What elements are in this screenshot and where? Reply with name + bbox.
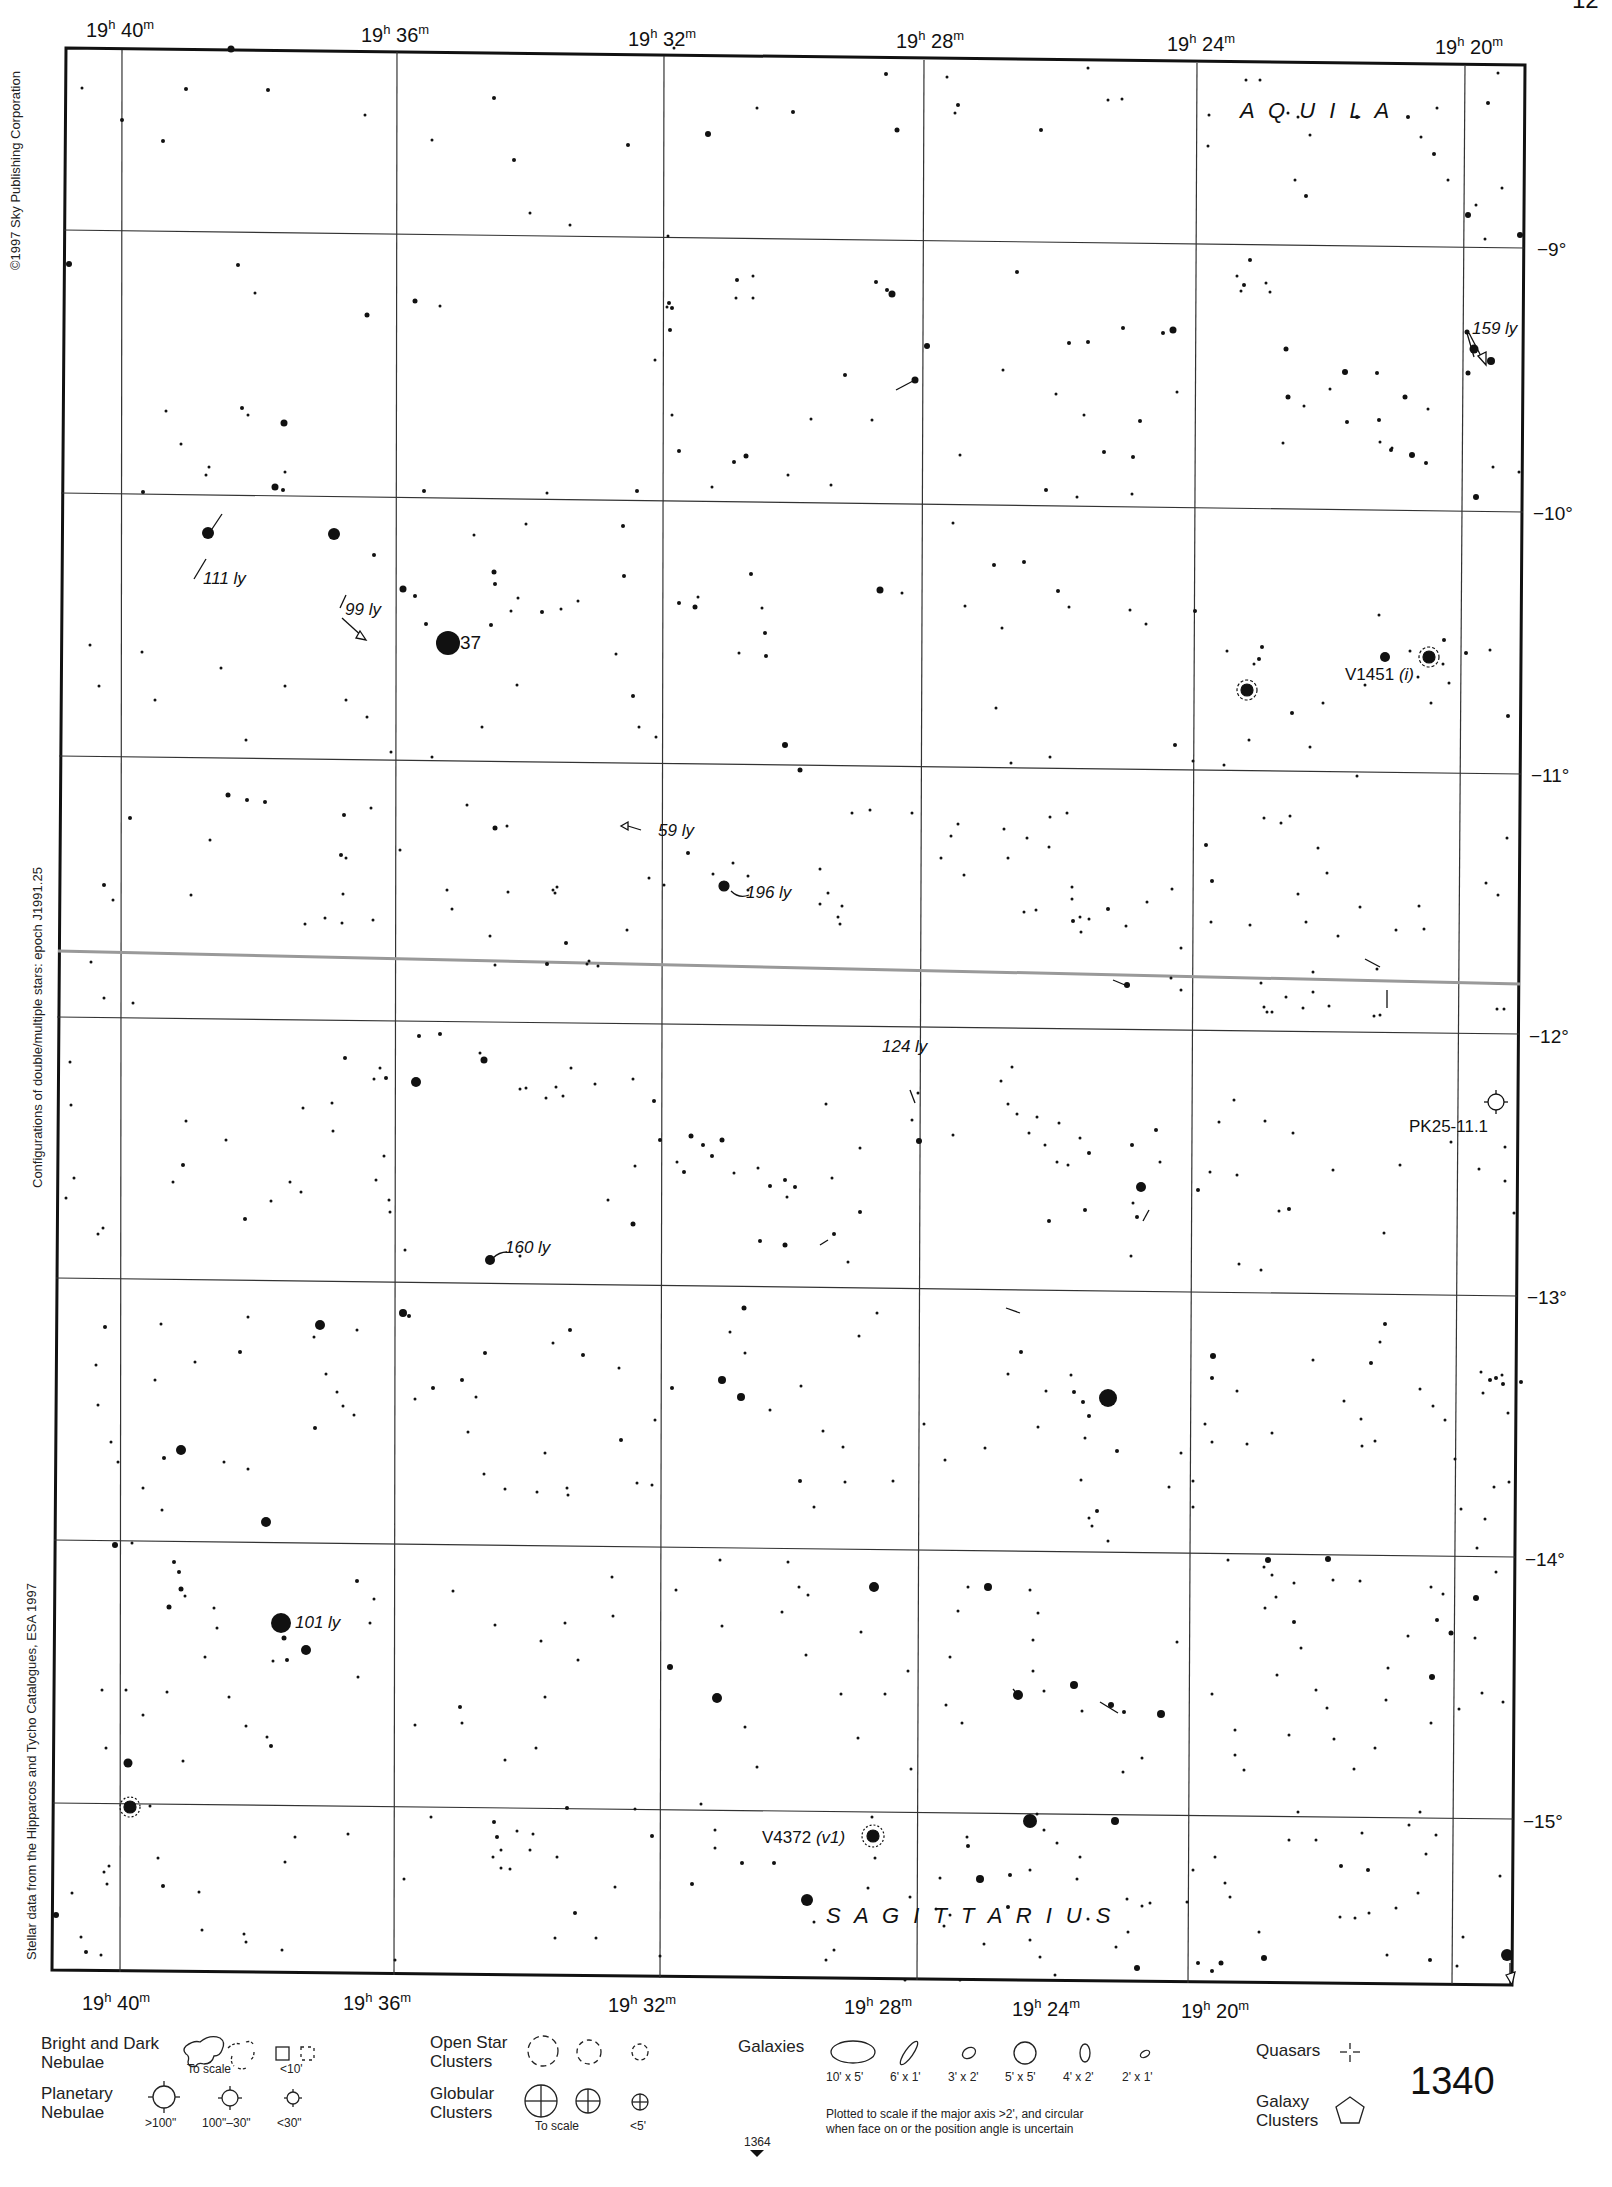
corner-mark: 12 bbox=[1572, 0, 1599, 13]
ra-grid bbox=[120, 50, 1465, 1984]
open-cluster-small-icon bbox=[632, 2044, 648, 2060]
svg-text:160 ly: 160 ly bbox=[505, 1238, 552, 1257]
dec-labels: −9° −10° −11° −12° −13° −14° −15° bbox=[1523, 239, 1573, 1832]
epoch-note: Configurations of double/multiple stars:… bbox=[30, 867, 45, 1188]
svg-text:−14°: −14° bbox=[1525, 1549, 1565, 1570]
galaxy-4x2-icon bbox=[1080, 2044, 1090, 2062]
legend-planetary-size-large: >100" bbox=[145, 2116, 176, 2130]
legend-galaxy-size-2: 3' x 2' bbox=[948, 2070, 979, 2084]
galaxy-2x1-icon bbox=[1139, 2049, 1151, 2059]
legend-nebulae-title: Bright and DarkNebulae bbox=[41, 2034, 159, 2072]
svg-text:−12°: −12° bbox=[1529, 1026, 1569, 1047]
svg-text:19h 36m: 19h 36m bbox=[361, 22, 429, 46]
svg-text:V1451 (i): V1451 (i) bbox=[1345, 665, 1414, 684]
galaxy-10x5-icon bbox=[831, 2041, 875, 2063]
galaxy-5x5-icon bbox=[1014, 2042, 1036, 2064]
svg-text:99 ly: 99 ly bbox=[345, 600, 382, 619]
svg-text:19h 32m: 19h 32m bbox=[628, 26, 696, 50]
legend-planetary-size-small: <30" bbox=[277, 2116, 302, 2130]
legend-planetary-title: PlanetaryNebulae bbox=[41, 2084, 113, 2122]
svg-text:19h 28m: 19h 28m bbox=[844, 1994, 912, 2018]
ra-labels-bottom: 19h 40m 19h 36m 19h 32m 19h 28m 19h 24m … bbox=[82, 1990, 1249, 2022]
copyright-note: ©1997 Sky Publishing Corporation bbox=[8, 71, 23, 270]
legend-galaxy-note: Plotted to scale if the major axis >2', … bbox=[826, 2107, 1083, 2137]
svg-text:19h 32m: 19h 32m bbox=[608, 1992, 676, 2016]
svg-text:19h 24m: 19h 24m bbox=[1167, 31, 1235, 55]
legend-galaxy-size-0: 10' x 5' bbox=[826, 2070, 863, 2084]
galaxy-6x1-icon bbox=[898, 2039, 921, 2067]
constellation-sagittarius: S A G I T T A R I U S bbox=[826, 1903, 1115, 1928]
svg-text:19h 20m: 19h 20m bbox=[1181, 1998, 1249, 2022]
svg-text:19h 36m: 19h 36m bbox=[343, 1990, 411, 2014]
constellation-aquila: A Q U I L A bbox=[1238, 98, 1393, 123]
svg-text:196 ly: 196 ly bbox=[746, 883, 793, 902]
svg-text:−9°: −9° bbox=[1537, 239, 1566, 260]
dec-grid bbox=[53, 230, 1524, 1819]
stars bbox=[53, 46, 1523, 1982]
legend-galaxy-size-4: 4' x 2' bbox=[1063, 2070, 1094, 2084]
svg-text:37: 37 bbox=[460, 632, 481, 653]
svg-text:−10°: −10° bbox=[1533, 503, 1573, 524]
source-note: Stellar data from the Hipparcos and Tych… bbox=[24, 1583, 39, 1960]
svg-text:59 ly: 59 ly bbox=[658, 821, 695, 840]
legend-nebulae-small: <10' bbox=[280, 2062, 303, 2076]
svg-text:124 ly: 124 ly bbox=[882, 1037, 929, 1056]
svg-text:19h 28m: 19h 28m bbox=[896, 28, 964, 52]
star-chart: 19h 40m 19h 36m 19h 32m 19h 28m 19h 24m … bbox=[0, 0, 1612, 2187]
legend-open-clusters-title: Open StarClusters bbox=[430, 2033, 508, 2071]
chart-frame bbox=[52, 48, 1525, 1985]
prev-page-arrow-icon bbox=[750, 2150, 764, 2157]
planetary-nebula-small-icon bbox=[284, 2089, 302, 2107]
motion-vectors bbox=[194, 333, 1515, 1985]
svg-text:−13°: −13° bbox=[1527, 1287, 1567, 1308]
svg-text:−15°: −15° bbox=[1523, 1811, 1563, 1832]
page-number: 1340 bbox=[1410, 2060, 1495, 2103]
svg-text:19h 24m: 19h 24m bbox=[1012, 1996, 1080, 2020]
globular-cluster-medium-icon bbox=[576, 2089, 600, 2113]
svg-text:111 ly: 111 ly bbox=[203, 569, 247, 588]
svg-text:19h 40m: 19h 40m bbox=[86, 17, 154, 41]
legend-globular-to-scale: To scale bbox=[535, 2119, 579, 2133]
legend-quasars-title: Quasars bbox=[1256, 2041, 1320, 2060]
prev-page-reference[interactable]: 1364 bbox=[744, 2135, 771, 2149]
legend-nebulae-to-scale: To scale bbox=[187, 2062, 231, 2076]
small-dark-nebula-icon bbox=[301, 2047, 314, 2060]
planetary-nebula-icon bbox=[1484, 1090, 1508, 1114]
svg-text:101 ly: 101 ly bbox=[295, 1613, 342, 1632]
legend-planetary-size-medium: 100"–30" bbox=[202, 2116, 251, 2130]
planetary-nebula-medium-icon bbox=[218, 2086, 242, 2110]
svg-text:−11°: −11° bbox=[1531, 765, 1569, 786]
legend-globular-title: GlobularClusters bbox=[430, 2084, 494, 2122]
quasar-icon bbox=[1340, 2043, 1360, 2062]
legend-galaxies-title: Galaxies bbox=[738, 2037, 804, 2056]
dark-nebula-icon bbox=[228, 2042, 254, 2070]
legend-galaxy-size-5: 2' x 1' bbox=[1122, 2070, 1153, 2084]
legend-globular-small: <5' bbox=[630, 2119, 646, 2133]
constellation-boundary bbox=[58, 951, 1520, 984]
open-cluster-large-icon bbox=[528, 2036, 558, 2066]
open-cluster-medium-icon bbox=[577, 2040, 601, 2064]
svg-text:19h 20m: 19h 20m bbox=[1435, 34, 1503, 58]
galaxy-cluster-icon bbox=[1336, 2097, 1364, 2123]
legend-galaxy-size-3: 5' x 5' bbox=[1005, 2070, 1036, 2084]
legend-galaxy-size-1: 6' x 1' bbox=[890, 2070, 921, 2084]
svg-text:19h 40m: 19h 40m bbox=[82, 1990, 150, 2014]
variable-star-markers bbox=[120, 647, 1439, 1847]
svg-text:PK25-11.1: PK25-11.1 bbox=[1409, 1117, 1488, 1136]
object-labels: 37 111 ly 99 ly 159 ly 59 ly 196 ly 124 … bbox=[203, 319, 1519, 1847]
globular-cluster-small-icon bbox=[632, 2094, 648, 2110]
legend-galaxy-clusters-title: GalaxyClusters bbox=[1256, 2092, 1318, 2130]
small-bright-nebula-icon bbox=[276, 2047, 289, 2060]
svg-text:159 ly: 159 ly bbox=[1472, 319, 1519, 338]
globular-cluster-large-icon bbox=[525, 2085, 557, 2117]
galaxy-3x2-icon bbox=[960, 2045, 977, 2061]
planetary-nebula-large-icon bbox=[148, 2081, 180, 2113]
svg-text:V4372 (v1): V4372 (v1) bbox=[762, 1828, 845, 1847]
